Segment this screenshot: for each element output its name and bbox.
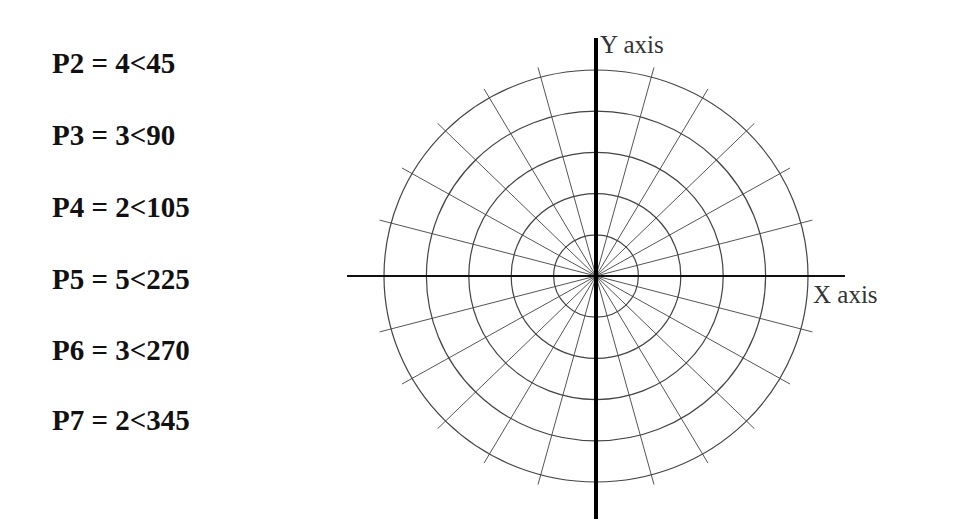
polar-spoke — [596, 276, 754, 429]
y-axis-label: Y axis — [600, 31, 664, 58]
polar-spoke — [596, 123, 754, 276]
polar-spoke — [438, 276, 596, 429]
polar-spoke — [380, 220, 596, 276]
x-axis-label: X axis — [813, 281, 878, 308]
polar-spoke — [380, 276, 596, 332]
polar-spoke — [538, 276, 596, 485]
polar-spoke — [596, 276, 654, 485]
polar-spoke — [596, 220, 812, 276]
polar-spoke — [596, 168, 790, 276]
polar-spoke — [402, 168, 596, 276]
polar-spoke — [484, 89, 596, 276]
polar-spoke — [402, 276, 596, 384]
polar-grid-diagram: Y axis X axis — [0, 0, 960, 530]
polar-spoke — [596, 67, 654, 276]
polar-spoke — [438, 123, 596, 276]
polar-spoke — [596, 276, 708, 463]
polar-spoke — [484, 276, 596, 463]
polar-spoke — [596, 276, 790, 384]
polar-spoke — [596, 276, 812, 332]
polar-spoke — [596, 89, 708, 276]
polar-spoke — [538, 67, 596, 276]
